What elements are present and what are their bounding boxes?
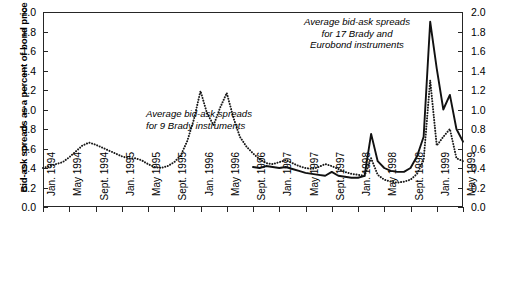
x-tick-mark — [437, 207, 438, 212]
x-tick-label: Jan. 1995 — [126, 152, 136, 216]
x-tick-label: Sept. 1998 — [415, 152, 425, 216]
y-tick-label-left: 1.2 — [6, 85, 36, 95]
x-tick-label: Jan. 1997 — [283, 152, 293, 216]
x-tick-mark — [96, 207, 97, 212]
y-tick-mark-left — [43, 12, 48, 13]
x-tick-label: Jan. 1999 — [441, 152, 451, 216]
x-tick-mark — [122, 207, 123, 212]
annotation-brady17: Average bid-ask spreads for 17 Brady and… — [277, 16, 437, 51]
x-tick-mark — [43, 207, 44, 212]
x-tick-mark — [332, 207, 333, 212]
y-tick-mark-right — [458, 129, 463, 130]
y-tick-label-left: 1.8 — [6, 27, 36, 37]
x-tick-label: May 1995 — [152, 152, 162, 216]
annotation-brady9: Average bid-ask spreads for 9 Brady inst… — [146, 108, 252, 131]
x-tick-label: Sept. 1994 — [100, 152, 110, 216]
y-tick-label-right: 2.0 — [471, 7, 501, 17]
y-tick-mark-right — [458, 149, 463, 150]
x-tick-label: May 1998 — [388, 152, 398, 216]
x-tick-mark — [463, 207, 464, 212]
x-tick-mark — [411, 207, 412, 212]
chart-container: Bid-ask spreads as a percent of bond pri… — [0, 0, 510, 289]
y-tick-mark-right — [458, 12, 463, 13]
x-tick-mark — [306, 207, 307, 212]
x-tick-mark — [227, 207, 228, 212]
y-tick-label-left: 0.2 — [6, 183, 36, 193]
y-tick-mark-right — [458, 51, 463, 52]
x-tick-mark — [253, 207, 254, 212]
x-tick-label: Sept. 1995 — [178, 152, 188, 216]
x-tick-label: May 1994 — [73, 152, 83, 216]
y-tick-mark-right — [458, 188, 463, 189]
y-tick-label-right: 1.6 — [471, 46, 501, 56]
y-tick-label-left: 2.0 — [6, 7, 36, 17]
y-tick-mark-right — [458, 71, 463, 72]
x-tick-label: Jan. 1998 — [362, 152, 372, 216]
y-tick-mark-left — [43, 110, 48, 111]
x-tick-label: Sept. 1996 — [257, 152, 267, 216]
x-tick-mark — [69, 207, 70, 212]
y-tick-label-left: 0.8 — [6, 124, 36, 134]
x-tick-mark — [384, 207, 385, 212]
x-tick-label: Jan. 1996 — [205, 152, 215, 216]
x-tick-mark — [174, 207, 175, 212]
y-tick-mark-left — [43, 90, 48, 91]
x-tick-mark — [358, 207, 359, 212]
y-tick-mark-right — [458, 110, 463, 111]
y-tick-mark-left — [43, 32, 48, 33]
y-tick-label-right: 1.2 — [471, 85, 501, 95]
y-tick-label-left: 0.6 — [6, 144, 36, 154]
y-tick-mark-left — [43, 71, 48, 72]
x-tick-label: Jan. 1994 — [47, 152, 57, 216]
y-tick-label-right: 1.4 — [471, 66, 501, 76]
x-tick-label: May 1997 — [310, 152, 320, 216]
y-tick-label-left: 1.4 — [6, 66, 36, 76]
x-tick-label: Sept. 1997 — [336, 152, 346, 216]
y-tick-mark-left — [43, 51, 48, 52]
y-tick-label-left: 0.0 — [6, 202, 36, 212]
y-tick-label-right: 1.8 — [471, 27, 501, 37]
y-tick-label-right: 1.0 — [471, 105, 501, 115]
y-tick-mark-right — [458, 90, 463, 91]
y-tick-mark-right — [458, 32, 463, 33]
x-tick-label: May 1996 — [231, 152, 241, 216]
x-tick-mark — [201, 207, 202, 212]
x-tick-label: May 1999 — [467, 152, 477, 216]
y-tick-mark-left — [43, 149, 48, 150]
y-tick-label-left: 0.4 — [6, 163, 36, 173]
y-tick-mark-right — [458, 168, 463, 169]
y-tick-mark-left — [43, 129, 48, 130]
y-tick-label-left: 1.6 — [6, 46, 36, 56]
y-tick-label-left: 1.0 — [6, 105, 36, 115]
y-tick-label-right: 0.8 — [471, 124, 501, 134]
x-tick-mark — [148, 207, 149, 212]
x-tick-mark — [279, 207, 280, 212]
